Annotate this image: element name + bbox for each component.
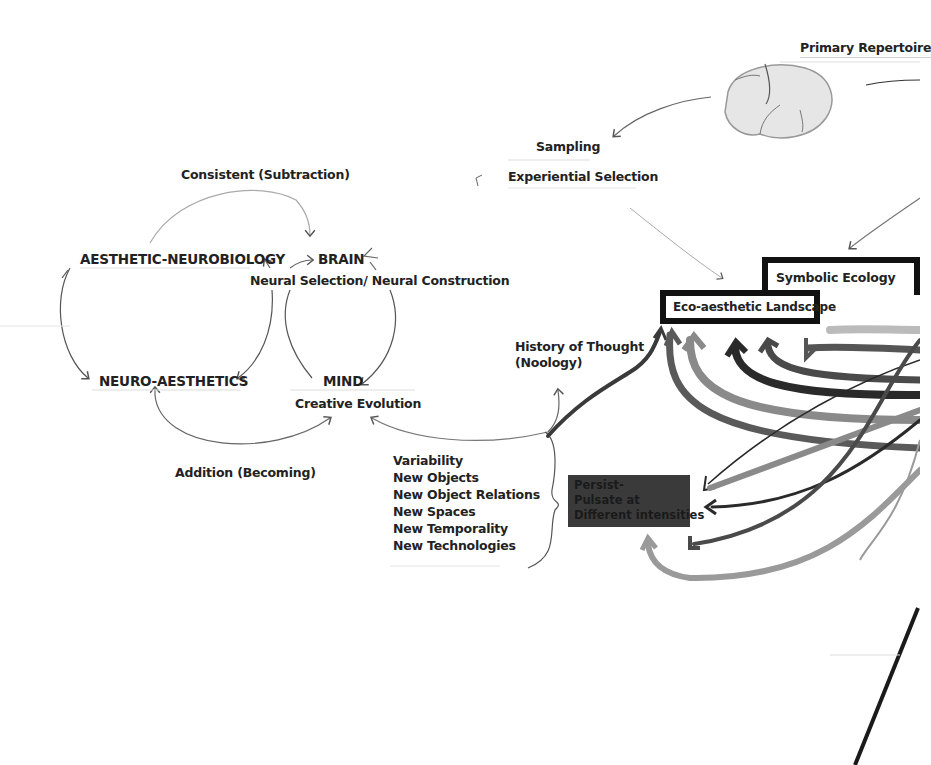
sampling-label: Sampling: [536, 139, 600, 154]
symbolic-ecology-label: Symbolic Ecology: [776, 270, 895, 285]
brain-sketch-icon: [725, 64, 832, 138]
aesthetic-neurobiology-node: AESTHETIC-NEUROBIOLOGY: [80, 251, 285, 267]
consistent-subtraction-label: Consistent (Subtraction): [181, 167, 350, 182]
list-item: New Technologies: [393, 537, 540, 554]
noology-label: (Noology): [515, 355, 582, 370]
addition-becoming-label: Addition (Becoming): [175, 465, 316, 480]
history-of-thought-label: History of Thought: [515, 339, 644, 354]
intensities-line: Different intensities: [574, 508, 684, 523]
pulsate-line: Pulsate at: [574, 493, 684, 508]
eco-aesthetic-landscape-label: Eco-aesthetic Landscape: [673, 300, 836, 314]
list-item: New Spaces: [393, 503, 540, 520]
persist-pulsate-box: Persist- Pulsate at Different intensitie…: [568, 475, 690, 527]
list-item: New Objects: [393, 469, 540, 486]
brain-node: BRAIN: [318, 251, 364, 267]
experiential-selection-label: Experiential Selection: [508, 169, 658, 184]
mind-node: MIND: [323, 373, 363, 389]
list-item: Variability: [393, 452, 540, 469]
variability-list: Variability New Objects New Object Relat…: [393, 452, 540, 554]
list-item: New Temporality: [393, 520, 540, 537]
creative-evolution-label: Creative Evolution: [295, 396, 421, 411]
primary-repertoire-label: Primary Repertoire: [800, 40, 931, 58]
list-item: New Object Relations: [393, 486, 540, 503]
persist-line: Persist-: [574, 478, 684, 493]
neuro-aesthetics-node: NEURO-AESTHETICS: [99, 373, 248, 389]
neural-selection-label: Neural Selection/ Neural Construction: [250, 273, 509, 288]
